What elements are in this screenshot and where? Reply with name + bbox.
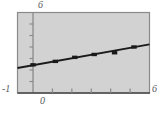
data-point (131, 45, 136, 48)
data-point (53, 60, 58, 63)
y-axis-max-label: 6 (38, 0, 43, 10)
data-point (112, 51, 117, 54)
plot-area-background (18, 13, 150, 94)
chart-canvas (0, 0, 165, 115)
x-axis-max-label: 6 (152, 84, 157, 94)
data-point (72, 56, 77, 59)
data-point (91, 53, 96, 56)
x-axis-min-label: 0 (40, 96, 45, 106)
figure-container: 6 -1 0 6 (0, 0, 165, 115)
y-axis-min-label: -1 (2, 84, 10, 94)
data-point (30, 63, 35, 66)
